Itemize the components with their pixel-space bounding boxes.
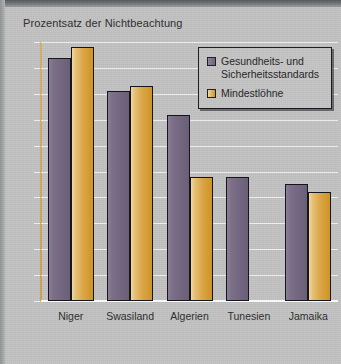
y-tick-mark [34,94,40,95]
y-tick-mark [34,68,40,69]
y-tick-mark [34,197,40,198]
chart-page: Prozentsatz der Nichtbeachtung 010203040… [0,0,341,364]
y-tick-mark [34,301,40,302]
legend-item-health-safety: Gesundheits- und Sicherheitsstandards [207,55,324,80]
legend-label-minimum-wage: Mindestlöhne [221,87,283,100]
bar [71,47,94,301]
bar [130,86,153,301]
bar [190,177,213,301]
x-tick-label: Algerien [170,310,209,322]
y-tick-mark [34,275,40,276]
gridline [41,42,338,43]
y-tick-mark [34,42,40,43]
y-tick-mark [34,120,40,121]
bar [285,184,308,301]
bar [48,58,71,301]
y-tick-mark [34,172,40,173]
x-tick-label: Tunesien [227,310,270,322]
legend-swatch-health-safety-icon [207,57,216,66]
chart-title: Prozentsatz der Nichtbeachtung [23,17,183,29]
bar [107,91,130,301]
y-tick-mark [34,223,40,224]
page-left-edge [0,0,5,364]
bar [167,115,190,301]
legend-swatch-minimum-wage-icon [207,89,216,98]
y-tick-mark [34,249,40,250]
bar [308,192,331,301]
legend-item-minimum-wage: Mindestlöhne [207,87,324,100]
chart-legend: Gesundheits- und Sicherheitsstandards Mi… [198,47,332,109]
page-top-edge [0,0,341,7]
x-tick-label: Swasiland [106,310,154,322]
legend-label-health-safety: Gesundheits- und Sicherheitsstandards [221,55,324,80]
x-tick-label: Niger [58,310,83,322]
bar [226,177,249,301]
y-tick-mark [34,146,40,147]
x-tick-label: Jamaika [289,310,328,322]
